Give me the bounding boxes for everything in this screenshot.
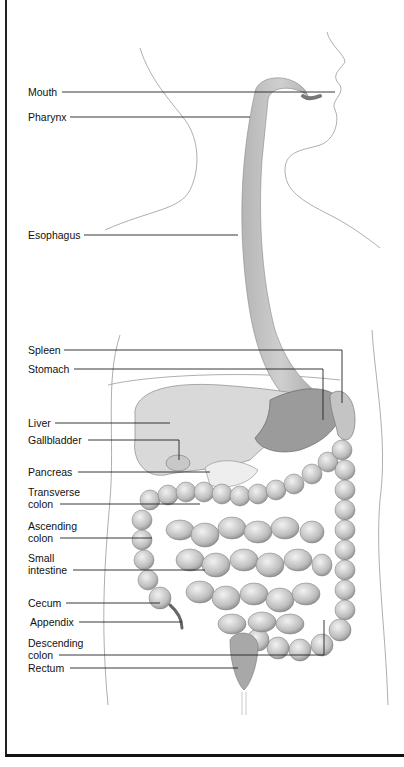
label-appendix: Appendix <box>30 616 74 628</box>
label-spleen: Spleen <box>28 344 61 356</box>
label-rectum: Rectum <box>28 662 64 674</box>
label-pharynx: Pharynx <box>28 111 67 123</box>
label-pancreas: Pancreas <box>28 466 72 478</box>
label-transverse-colon: Transverse colon <box>28 486 80 510</box>
appendix-shape <box>170 605 182 628</box>
gallbladder-shape <box>166 455 190 471</box>
label-small-intestine: Small intestine <box>28 552 67 576</box>
label-stomach: Stomach <box>28 363 69 375</box>
spleen-shape <box>330 391 355 440</box>
esophagus-shape <box>242 78 320 410</box>
rectum-shape <box>230 633 258 690</box>
label-liver: Liver <box>28 417 51 429</box>
label-ascending-colon: Ascending colon <box>28 520 77 544</box>
label-mouth: Mouth <box>28 86 57 98</box>
label-cecum: Cecum <box>28 597 61 609</box>
label-esophagus: Esophagus <box>28 229 81 241</box>
small-intestine-shape <box>166 517 332 634</box>
label-descending-colon: Descending colon <box>28 637 83 661</box>
label-gallbladder: Gallbladder <box>28 434 82 446</box>
pancreas-shape <box>205 461 258 487</box>
